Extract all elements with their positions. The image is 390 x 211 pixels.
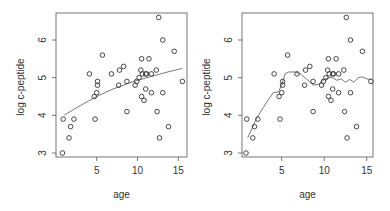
data-point <box>143 87 148 92</box>
data-point <box>166 124 171 129</box>
data-point <box>60 151 65 156</box>
data-point <box>272 72 277 77</box>
data-point <box>348 90 353 95</box>
data-point <box>329 98 334 103</box>
y-tick-label: 4 <box>223 112 234 118</box>
plot-frame <box>56 13 187 157</box>
y-tick-label: 3 <box>37 150 48 156</box>
data-point <box>149 72 154 77</box>
y-tick-label: 6 <box>223 37 234 43</box>
data-point <box>68 124 73 129</box>
data-point <box>67 136 72 141</box>
data-point <box>303 68 308 73</box>
data-point <box>336 90 341 95</box>
data-point <box>285 53 290 58</box>
x-axis-title: age <box>113 189 130 200</box>
data-point <box>93 117 98 122</box>
data-point <box>344 15 349 20</box>
data-point <box>109 72 114 77</box>
data-point <box>180 79 185 84</box>
x-tick-label: 5 <box>94 165 100 176</box>
x-tick-label: 10 <box>132 165 144 176</box>
scatter-panel-left: 510153456agelog c-peptide <box>15 13 187 200</box>
data-point <box>369 79 374 84</box>
data-point <box>277 94 282 99</box>
data-point <box>100 53 105 58</box>
x-tick-label: 5 <box>279 165 285 176</box>
data-point <box>125 79 130 84</box>
data-point <box>139 57 144 62</box>
fit-line <box>248 72 371 138</box>
data-point <box>345 136 350 141</box>
data-point <box>302 83 307 88</box>
x-tick-label: 15 <box>173 165 185 176</box>
data-point <box>72 117 77 122</box>
x-tick-label: 10 <box>319 165 331 176</box>
data-point <box>157 136 162 141</box>
data-point <box>147 57 152 62</box>
y-axis-title: log c-peptide <box>201 58 212 116</box>
data-point <box>137 75 142 80</box>
data-point <box>334 57 339 62</box>
data-point <box>326 57 331 62</box>
data-point <box>342 109 347 114</box>
data-point <box>161 38 166 43</box>
y-axis-title: log c-peptide <box>15 58 26 116</box>
data-point <box>311 109 316 114</box>
data-point <box>354 124 359 129</box>
x-tick-label: 15 <box>361 165 373 176</box>
y-tick-label: 6 <box>37 37 48 43</box>
y-tick-label: 5 <box>223 74 234 80</box>
x-axis-title: age <box>299 189 316 200</box>
data-point <box>308 64 313 69</box>
data-point <box>155 109 160 114</box>
data-point <box>154 68 159 73</box>
data-point <box>342 68 347 73</box>
data-point <box>125 109 130 114</box>
data-point <box>330 87 335 92</box>
y-tick-label: 4 <box>37 112 48 118</box>
data-point <box>117 68 122 73</box>
data-point <box>360 49 365 54</box>
data-point <box>348 38 353 43</box>
plot-frame <box>242 13 373 157</box>
data-point <box>244 151 249 156</box>
y-tick-label: 5 <box>37 74 48 80</box>
data-point <box>336 72 341 77</box>
data-point <box>121 64 126 69</box>
data-point <box>149 90 154 95</box>
data-point <box>161 90 166 95</box>
data-point <box>142 98 147 103</box>
data-point <box>311 79 316 84</box>
data-point <box>172 49 177 54</box>
data-point <box>245 117 250 122</box>
data-point <box>278 117 283 122</box>
data-point <box>87 72 92 77</box>
data-point <box>61 117 66 122</box>
y-tick-label: 3 <box>223 150 234 156</box>
scatter-panel-right: 510153456agelog c-peptide <box>201 13 373 200</box>
chart-figure: 510153456agelog c-peptide 510153456agelo… <box>0 0 390 211</box>
data-point <box>156 15 161 20</box>
data-point <box>251 136 256 141</box>
